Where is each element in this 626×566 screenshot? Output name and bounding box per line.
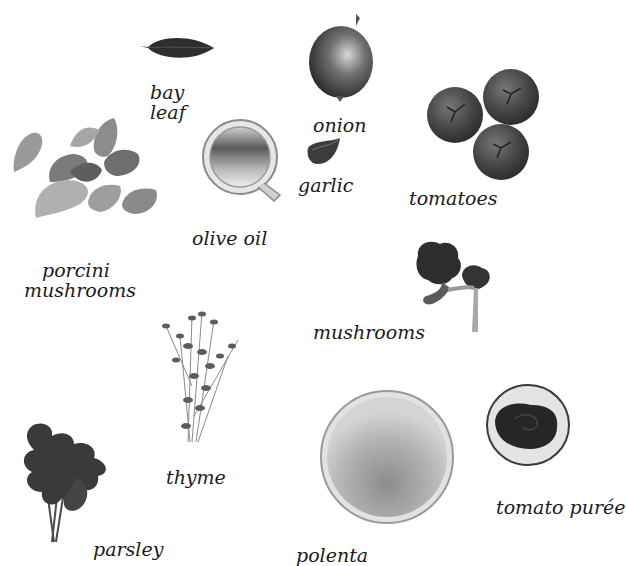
onion-label: onion	[313, 115, 366, 135]
mushrooms-label: mushrooms	[313, 322, 425, 342]
tomato-puree-label: tomato purée	[496, 497, 626, 517]
porcini-mushrooms-image	[10, 110, 162, 230]
bay-leaf-image	[138, 32, 218, 64]
porcini-label-line2: mushrooms	[24, 280, 136, 300]
thyme-label: thyme	[166, 467, 226, 487]
polenta-label: polenta	[296, 545, 368, 565]
parsley-label: parsley	[93, 539, 163, 559]
garlic-label: garlic	[298, 175, 353, 195]
bay-leaf-label-line1: bay	[150, 82, 186, 102]
onion-image	[306, 12, 376, 102]
garlic-image	[306, 138, 342, 166]
tomatoes-label: tomatoes	[409, 188, 498, 208]
thyme-image	[158, 296, 250, 446]
tomato-puree-image	[485, 383, 571, 467]
tomatoes-image	[425, 62, 545, 184]
porcini-label-line1: porcini	[24, 260, 136, 280]
olive-oil-label: olive oil	[192, 228, 267, 248]
polenta-image	[319, 389, 455, 525]
porcini-mushrooms-label: porcini mushrooms	[24, 260, 136, 300]
olive-oil-image	[202, 117, 282, 207]
parsley-image	[18, 418, 114, 546]
